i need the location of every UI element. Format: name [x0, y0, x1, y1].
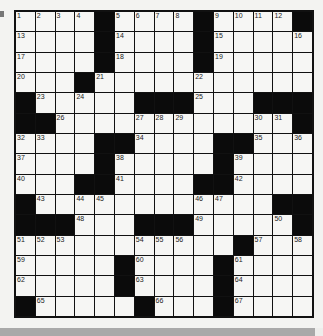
grid-cell[interactable]: [135, 32, 154, 51]
grid-cell[interactable]: [95, 114, 114, 133]
grid-cell[interactable]: [273, 256, 292, 275]
grid-cell[interactable]: [273, 134, 292, 153]
grid-cell[interactable]: 9: [214, 12, 233, 31]
grid-cell[interactable]: [254, 32, 273, 51]
grid-cell[interactable]: [214, 114, 233, 133]
grid-cell[interactable]: 37: [16, 154, 35, 173]
grid-cell[interactable]: [75, 114, 94, 133]
grid-cell[interactable]: [95, 276, 114, 295]
grid-cell[interactable]: 54: [135, 236, 154, 255]
grid-cell[interactable]: [75, 297, 94, 316]
grid-cell[interactable]: [194, 154, 213, 173]
grid-cell[interactable]: [214, 215, 233, 234]
grid-cell[interactable]: 15: [214, 32, 233, 51]
grid-cell[interactable]: [115, 114, 134, 133]
grid-cell[interactable]: [234, 195, 253, 214]
grid-cell[interactable]: [56, 154, 75, 173]
grid-cell[interactable]: 51: [16, 236, 35, 255]
grid-cell[interactable]: 63: [135, 276, 154, 295]
grid-cell[interactable]: 26: [56, 114, 75, 133]
grid-cell[interactable]: [293, 256, 312, 275]
grid-cell[interactable]: [254, 175, 273, 194]
grid-cell[interactable]: [56, 276, 75, 295]
grid-cell[interactable]: 44: [75, 195, 94, 214]
grid-cell[interactable]: [75, 154, 94, 173]
grid-cell[interactable]: [174, 154, 193, 173]
grid-cell[interactable]: 20: [16, 73, 35, 92]
grid-cell[interactable]: [273, 73, 292, 92]
grid-cell[interactable]: 55: [155, 236, 174, 255]
grid-cell[interactable]: 67: [234, 297, 253, 316]
grid-cell[interactable]: 32: [16, 134, 35, 153]
grid-cell[interactable]: 14: [115, 32, 134, 51]
grid-cell[interactable]: [95, 256, 114, 275]
grid-cell[interactable]: 59: [16, 256, 35, 275]
grid-cell[interactable]: 22: [194, 73, 213, 92]
grid-cell[interactable]: [234, 53, 253, 72]
grid-cell[interactable]: 7: [155, 12, 174, 31]
grid-cell[interactable]: [254, 256, 273, 275]
grid-cell[interactable]: 35: [254, 134, 273, 153]
grid-cell[interactable]: [174, 276, 193, 295]
grid-cell[interactable]: [56, 134, 75, 153]
grid-cell[interactable]: [155, 195, 174, 214]
grid-cell[interactable]: [293, 154, 312, 173]
grid-cell[interactable]: [95, 215, 114, 234]
grid-cell[interactable]: 47: [214, 195, 233, 214]
grid-cell[interactable]: 2: [36, 12, 55, 31]
grid-cell[interactable]: [254, 297, 273, 316]
grid-cell[interactable]: [115, 93, 134, 112]
grid-cell[interactable]: [95, 93, 114, 112]
grid-cell[interactable]: [234, 93, 253, 112]
grid-cell[interactable]: [293, 73, 312, 92]
grid-cell[interactable]: 10: [234, 12, 253, 31]
grid-cell[interactable]: 34: [135, 134, 154, 153]
grid-cell[interactable]: [273, 276, 292, 295]
grid-cell[interactable]: 48: [75, 215, 94, 234]
grid-cell[interactable]: 61: [234, 256, 253, 275]
grid-cell[interactable]: 19: [214, 53, 233, 72]
grid-cell[interactable]: [234, 32, 253, 51]
grid-cell[interactable]: [234, 114, 253, 133]
grid-cell[interactable]: 40: [16, 175, 35, 194]
grid-cell[interactable]: 4: [75, 12, 94, 31]
grid-cell[interactable]: [75, 236, 94, 255]
grid-cell[interactable]: 52: [36, 236, 55, 255]
grid-cell[interactable]: [254, 195, 273, 214]
grid-cell[interactable]: [75, 32, 94, 51]
grid-cell[interactable]: 17: [16, 53, 35, 72]
grid-cell[interactable]: 11: [254, 12, 273, 31]
grid-cell[interactable]: [293, 175, 312, 194]
grid-cell[interactable]: [194, 236, 213, 255]
grid-cell[interactable]: [273, 154, 292, 173]
grid-cell[interactable]: [75, 134, 94, 153]
grid-cell[interactable]: [56, 53, 75, 72]
grid-cell[interactable]: [56, 195, 75, 214]
grid-cell[interactable]: [155, 32, 174, 51]
grid-cell[interactable]: 28: [155, 114, 174, 133]
grid-cell[interactable]: [95, 297, 114, 316]
grid-cell[interactable]: [36, 154, 55, 173]
grid-cell[interactable]: [36, 73, 55, 92]
grid-cell[interactable]: 66: [155, 297, 174, 316]
grid-cell[interactable]: [56, 175, 75, 194]
grid-cell[interactable]: 41: [115, 175, 134, 194]
grid-cell[interactable]: 46: [194, 195, 213, 214]
grid-cell[interactable]: [194, 114, 213, 133]
grid-cell[interactable]: 50: [273, 215, 292, 234]
grid-cell[interactable]: [254, 53, 273, 72]
grid-cell[interactable]: [135, 53, 154, 72]
grid-cell[interactable]: 39: [234, 154, 253, 173]
grid-cell[interactable]: [36, 53, 55, 72]
grid-cell[interactable]: [234, 73, 253, 92]
grid-cell[interactable]: [273, 236, 292, 255]
grid-cell[interactable]: [135, 154, 154, 173]
grid-cell[interactable]: [293, 297, 312, 316]
grid-cell[interactable]: 60: [135, 256, 154, 275]
grid-cell[interactable]: 1: [16, 12, 35, 31]
grid-cell[interactable]: [56, 256, 75, 275]
grid-cell[interactable]: [115, 236, 134, 255]
grid-cell[interactable]: [115, 215, 134, 234]
grid-cell[interactable]: [254, 276, 273, 295]
grid-cell[interactable]: [155, 154, 174, 173]
